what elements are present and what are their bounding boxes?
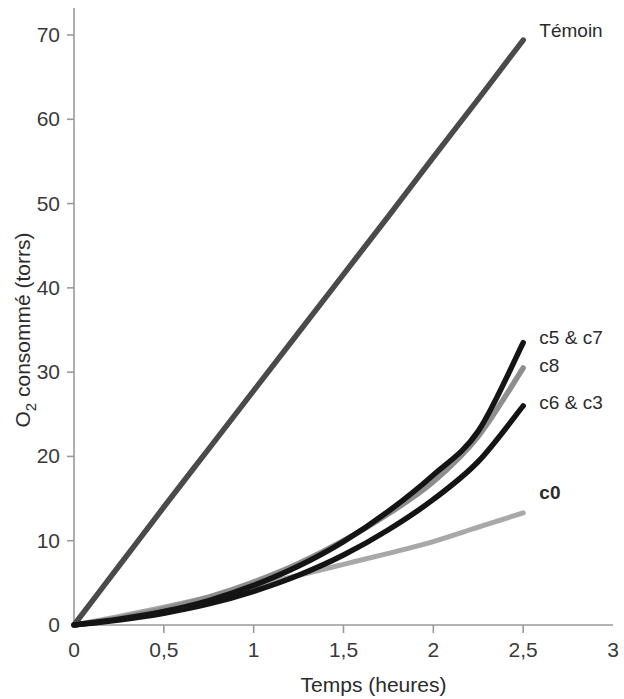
series-line-t-moin [74,40,523,625]
series-layer [74,40,523,625]
y-tick-label: 0 [48,613,60,636]
y-tick-label: 50 [37,192,60,215]
y-axis-title-main: O [11,411,34,427]
y-tick-label: 30 [37,360,60,383]
series-label-layer: Témoinc5 & c7c8c6 & c3c0 [539,20,602,503]
y-tick-label: 10 [37,529,60,552]
y-tick-label: 40 [37,276,60,299]
chart-figure: 01020304050607000,511,522,53 Témoinc5 & … [0,0,624,699]
x-tick-label: 0 [68,638,80,661]
series-label-c5-c7: c5 & c7 [539,327,602,348]
x-tick-label: 3 [607,638,619,661]
series-label-c8: c8 [539,355,559,376]
series-line-c8 [74,368,523,625]
y-tick-label: 60 [37,107,60,130]
y-tick-label: 70 [37,23,60,46]
x-tick-label: 1,5 [329,638,358,661]
line-chart: 01020304050607000,511,522,53 Témoinc5 & … [0,0,624,699]
y-axis-title-rest: consommé (torrs) [11,232,34,402]
x-axis-title: Temps (heures) [301,673,447,696]
series-label-t-moin: Témoin [539,20,602,41]
x-tick-label: 0,5 [149,638,178,661]
y-axis-title-subscript: 2 [22,403,39,411]
y-axis-title: O2 consommé (torrs) [11,232,39,427]
series-line-c6-c3 [74,406,523,625]
x-tick-label: 2 [427,638,439,661]
x-tick-label: 1 [248,638,260,661]
series-label-c0: c0 [539,482,560,503]
y-axis-title-group: O2 consommé (torrs) [11,232,39,427]
axis-layer [67,8,613,633]
series-label-c6-c3: c6 & c3 [539,392,602,413]
x-tick-label: 2,5 [509,638,538,661]
y-tick-label: 20 [37,444,60,467]
